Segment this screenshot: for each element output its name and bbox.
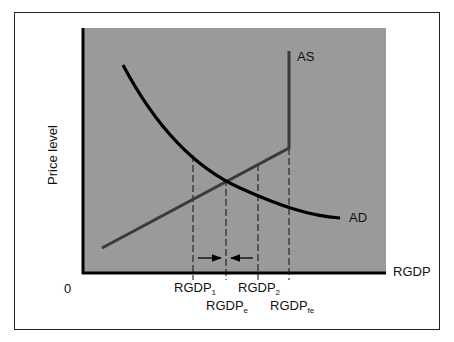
y-axis-label: Price level: [45, 125, 60, 185]
tick-rgdp1: RGDP1: [174, 280, 217, 297]
tick-rgdpe: RGDPe: [206, 298, 249, 315]
tick-rgdp2: RGDP2: [238, 280, 281, 297]
ad-as-diagram: AS AD Price level RGDP 0 RGDP1 RGDP2 RGD…: [0, 0, 454, 342]
origin-label: 0: [64, 281, 71, 296]
as-label: AS: [297, 49, 315, 64]
plot-area: [83, 28, 386, 273]
x-axis-label: RGDP: [393, 264, 431, 279]
tick-rgdpfe: RGDPfe: [270, 298, 315, 315]
ad-label: AD: [349, 210, 367, 225]
